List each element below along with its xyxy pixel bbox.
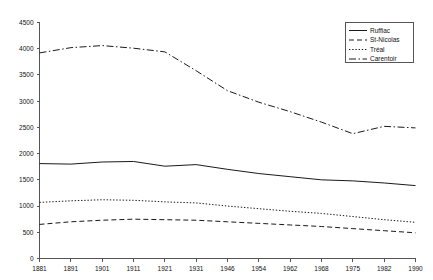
legend-label-st-nicolas: St-Nicolas [370, 36, 400, 43]
x-tick-label: 1881 [32, 265, 47, 272]
x-tick-label: 1990 [408, 265, 423, 272]
x-tick-label: 1911 [127, 265, 141, 272]
x-tick-label: 1975 [346, 265, 361, 272]
y-tick-label: 4000 [19, 45, 34, 52]
legend-label-ruffiac: Ruffiac [370, 27, 391, 34]
y-axis: 050010001500200025003000350040004500 [19, 19, 39, 262]
series-lines [40, 46, 416, 233]
series-line-st-nicolas [40, 219, 416, 233]
series-line-ruffiac [40, 161, 416, 185]
chart-legend: RuffiacSt-NicolasTréalCarentoir [346, 23, 414, 63]
x-tick-label: 1962 [283, 265, 298, 272]
plot-area: 050010001500200025003000350040004500 188… [0, 0, 433, 280]
x-tick-label: 1921 [158, 265, 173, 272]
x-tick-label: 1954 [252, 265, 267, 272]
y-tick-label: 2000 [19, 150, 34, 157]
y-tick-label: 3500 [19, 71, 34, 78]
legend-label-carentoir: Carentoir [370, 55, 398, 62]
x-tick-label: 1946 [220, 265, 235, 272]
line-chart-population: 050010001500200025003000350040004500 188… [0, 0, 433, 280]
x-tick-label: 1891 [64, 265, 79, 272]
y-tick-label: 4500 [19, 19, 34, 26]
legend-label-tr-al: Tréal [370, 46, 385, 53]
y-tick-label: 500 [23, 229, 34, 236]
x-tick-label: 1931 [189, 265, 204, 272]
x-tick-label: 1982 [377, 265, 392, 272]
y-tick-label: 1000 [19, 202, 34, 209]
x-axis: 1881189119011911192119311946195419621968… [32, 259, 423, 272]
x-tick-label: 1901 [95, 265, 110, 272]
x-tick-label: 1968 [314, 265, 329, 272]
series-line-tr-al [40, 200, 416, 223]
y-tick-label: 0 [30, 255, 34, 262]
y-tick-label: 2500 [19, 124, 34, 131]
y-tick-label: 1500 [19, 176, 34, 183]
y-tick-label: 3000 [19, 98, 34, 105]
